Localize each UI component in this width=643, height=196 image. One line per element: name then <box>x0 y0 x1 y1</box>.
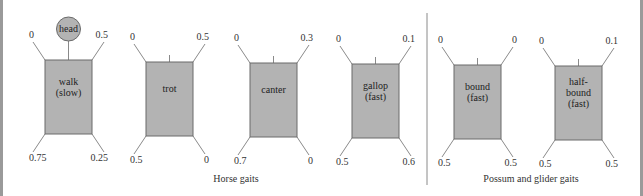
leg-hind-right <box>399 138 411 156</box>
gait-name-line: walk <box>59 76 78 87</box>
phase-hind-right: 0.25 <box>91 152 109 163</box>
gait-gallop: gallop(fast)00.10.50.6 <box>336 33 415 167</box>
leg-front-right <box>297 45 309 63</box>
phase-hind-right: 0.5 <box>505 157 518 168</box>
leg-hind-left <box>238 137 250 155</box>
leg-hind-right <box>602 140 614 158</box>
phase-hind-right: 0 <box>308 155 313 166</box>
gait-name-line: (slow) <box>56 87 82 99</box>
gait-name-line: (fast) <box>365 91 386 103</box>
phase-hind-right: 0.5 <box>606 158 619 169</box>
leg-front-left <box>134 44 146 62</box>
phase-hind-left: 0.75 <box>29 152 47 163</box>
leg-hind-right <box>92 134 104 152</box>
gait-trot: trot00.50.50 <box>130 31 209 165</box>
leg-front-left <box>543 48 555 66</box>
phase-hind-left: 0.5 <box>130 154 143 165</box>
caption-horse-gaits: Horse gaits <box>213 173 258 184</box>
gait-name-line: bound <box>465 81 490 92</box>
leg-hind-left <box>33 134 45 152</box>
phase-front-left: 0 <box>234 32 239 43</box>
phase-front-right: 0.3 <box>301 32 314 43</box>
gait-walk: headwalk(slow)00.50.750.25 <box>29 17 108 163</box>
leg-front-left <box>442 47 454 65</box>
gait-name-line: gallop <box>363 80 388 91</box>
body-rect <box>250 63 297 137</box>
phase-hind-right: 0.6 <box>403 156 416 167</box>
head-label: head <box>59 23 78 34</box>
gait-half-bound: half-bound(fast)00.10.50.5 <box>539 35 618 169</box>
leg-front-right <box>193 44 205 62</box>
gait-name-line: (fast) <box>568 98 589 110</box>
caption-possum-glider-gaits: Possum and glider gaits <box>483 173 578 184</box>
leg-front-right <box>501 47 513 65</box>
leg-hind-left <box>543 140 555 158</box>
gait-name-line: (fast) <box>467 92 488 104</box>
phase-front-right: 0.1 <box>403 33 416 44</box>
phase-front-right: 0.5 <box>197 31 210 42</box>
leg-hind-left <box>442 139 454 157</box>
leg-front-right <box>399 46 411 64</box>
phase-hind-right: 0 <box>204 154 209 165</box>
phase-front-left: 0 <box>539 35 544 46</box>
leg-front-right <box>602 48 614 66</box>
leg-front-right <box>92 42 104 60</box>
left-border <box>0 0 3 196</box>
phase-front-left: 0 <box>29 29 34 40</box>
leg-hind-left <box>340 138 352 156</box>
phase-hind-left: 0.5 <box>438 157 451 168</box>
phase-front-left: 0 <box>130 31 135 42</box>
leg-hind-left <box>134 136 146 154</box>
phase-hind-left: 0.5 <box>539 158 552 169</box>
body-rect <box>146 62 193 136</box>
gait-name-line: bound <box>566 87 591 98</box>
leg-hind-right <box>501 139 513 157</box>
phase-front-right: 0.1 <box>606 35 619 46</box>
gait-bound: bound(fast)000.50.5 <box>438 34 517 168</box>
gait-diagram: headwalk(slow)00.50.750.25trot00.50.50ca… <box>0 0 643 196</box>
phase-hind-left: 0.5 <box>336 156 349 167</box>
leg-hind-right <box>297 137 309 155</box>
phase-hind-left: 0.7 <box>234 155 247 166</box>
phase-front-right: 0.5 <box>96 29 109 40</box>
gait-name-line: half- <box>569 76 588 87</box>
gait-name-line: trot <box>163 83 177 94</box>
leg-front-left <box>238 45 250 63</box>
gait-name-line: canter <box>261 84 286 95</box>
phase-front-left: 0 <box>336 33 341 44</box>
phase-front-left: 0 <box>438 34 443 45</box>
phase-front-right: 0 <box>512 34 517 45</box>
leg-front-left <box>33 42 45 60</box>
leg-front-left <box>340 46 352 64</box>
gait-canter: canter00.30.70 <box>234 32 313 166</box>
leg-hind-right <box>193 136 205 154</box>
